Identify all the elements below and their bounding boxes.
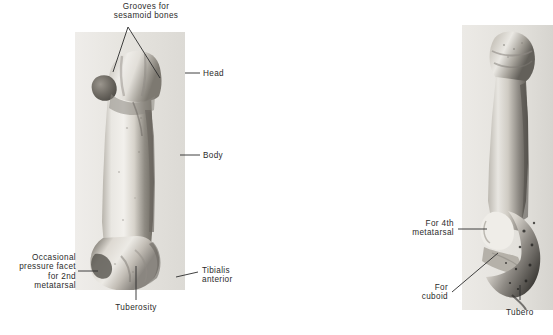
label-body: Body — [203, 151, 223, 160]
left-bone-photo — [75, 32, 185, 290]
label-tuberosity-right: Tubero — [506, 308, 534, 317]
label-tuberosity: Tuberosity — [106, 303, 166, 312]
label-for-4th-metatarsal: For 4th metatarsal — [394, 219, 454, 238]
label-head: Head — [203, 69, 224, 78]
right-bone-photo — [462, 25, 553, 310]
label-tibialis-anterior: Tibialis anterior — [202, 266, 233, 285]
label-occasional-pressure-facet: Occasional pressure facet for 2nd metata… — [6, 253, 76, 291]
label-for-cuboid: For cuboid — [396, 283, 448, 302]
anatomy-figure: Grooves for sesamoid bones Head Body Occ… — [0, 0, 553, 335]
label-grooves-for-sesamoid-bones: Grooves for sesamoid bones — [90, 2, 202, 21]
